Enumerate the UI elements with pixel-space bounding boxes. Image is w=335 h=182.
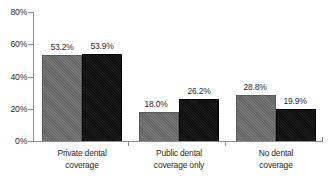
dental-coverage-bar-chart: 80% 60% 40% 20% 0% 53.2% 53.9% Private d… [0,0,335,182]
x-axis-category-none-line2: coverage [216,160,335,172]
value-label-none-series-a: 28.8% [233,82,277,92]
bar-private-series-a [42,55,82,141]
y-axis-tick-60 [28,44,33,45]
y-axis-tick-20 [28,109,33,110]
y-axis-label-0-wrap: 0% [0,137,27,146]
x-axis-category-none-line1: No dental [216,148,335,160]
y-axis-tick-40 [28,77,33,78]
x-axis-category-none: No dental coverage [216,148,335,171]
bar-public-series-b [179,99,219,141]
bar-private-series-b [82,54,122,141]
y-axis-label-80-wrap: 80% [0,8,27,17]
value-label-private-series-b: 53.9% [82,41,122,51]
y-axis-tick-80 [28,12,33,13]
value-label-public-series-a: 18.0% [134,99,178,109]
bar-none-series-a [236,95,276,141]
y-axis-line [33,12,34,141]
value-label-private-series-a: 53.2% [42,42,82,52]
value-label-none-series-b: 19.9% [273,96,317,106]
y-axis-label-20-wrap: 20% [0,105,27,114]
x-axis-tick-1 [128,142,129,146]
y-axis-label-40-wrap: 40% [0,73,27,82]
y-axis-label-60-wrap: 60% [0,40,27,49]
x-axis-tick-2 [225,142,226,146]
bar-public-series-a [139,112,179,141]
y-axis-label-20: 20% [1,105,27,114]
y-axis-label-60: 60% [1,40,27,49]
y-axis-label-0: 0% [1,137,27,146]
y-axis-label-80: 80% [1,8,27,17]
x-axis-end-cap [322,137,323,142]
x-axis-line [33,141,322,142]
y-axis-label-40: 40% [1,73,27,82]
value-label-public-series-b: 26.2% [177,86,221,96]
bar-none-series-b [276,109,316,141]
